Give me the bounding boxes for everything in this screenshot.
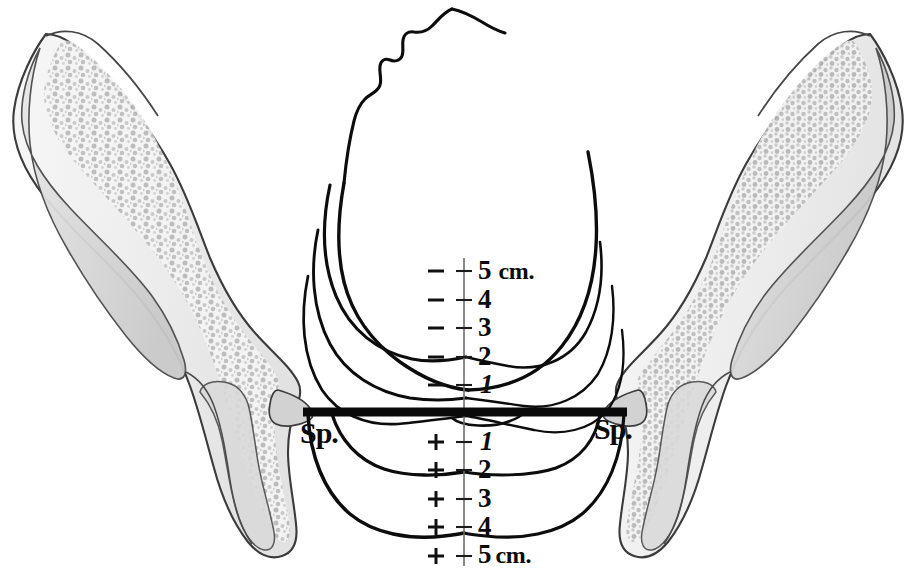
scale-label-plus-5: 5cm. (478, 541, 531, 568)
scale-value-plus-5: 5 (478, 539, 492, 569)
head-contour-station-minus1 (314, 230, 466, 400)
left-spine-label: Sp. (300, 418, 338, 448)
scale-label-minus-3: 3 (478, 314, 492, 341)
fetal-head-outline (339, 9, 597, 390)
scale-label-minus-5: 5cm. (478, 257, 534, 284)
scale-label-minus-2: 2 (478, 343, 492, 370)
fetal-head-profile-curve (344, 9, 452, 183)
scale-value-minus-5: 5 (478, 255, 492, 285)
scale-plus-marks (428, 434, 444, 564)
scale-label-minus-1: 1 (480, 371, 494, 398)
scale-label-minus-4: 4 (478, 286, 492, 313)
scale-label-plus-1: 1 (480, 428, 494, 455)
fetal-head-crown-right (452, 9, 505, 33)
left-pelvic-bone (13, 31, 313, 557)
head-contour-station-minus2 (325, 185, 466, 361)
right-pelvic-bone (603, 31, 903, 557)
anatomy-layer (0, 0, 916, 573)
scale-minus-marks (428, 271, 444, 385)
right-spine-label: Sp. (594, 414, 632, 444)
scale-label-plus-4: 4 (478, 513, 492, 540)
obstetric-station-figure: 5cm. 4 3 2 1 1 2 3 4 5cm. Sp. Sp. (0, 0, 916, 573)
scale-label-plus-3: 3 (478, 485, 492, 512)
scale-unit-plus-5: cm. (496, 542, 532, 568)
scale-label-plus-2: 2 (478, 456, 492, 483)
scale-unit-minus-5: cm. (499, 258, 535, 284)
